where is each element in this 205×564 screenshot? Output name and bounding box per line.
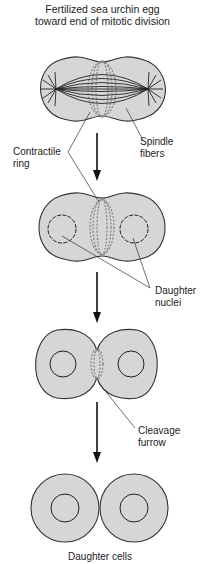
arrow-1 (93, 133, 101, 181)
arrow-3 (93, 402, 101, 463)
daughter-cell-left (31, 474, 99, 542)
stage-2-cell (39, 152, 165, 288)
arrow-2 (93, 272, 101, 323)
stage-4-daughter-cells (31, 474, 168, 542)
mitosis-diagram (0, 0, 205, 564)
label-contractile-ring: Contractile ring (13, 146, 61, 169)
label-daughter-nuclei: Daughter nuclei (155, 285, 196, 308)
label-spindle-fibers: Spindle fibers (140, 136, 173, 159)
label-daughter-cells: Daughter cells (0, 551, 200, 563)
daughter-cell-right (100, 474, 168, 542)
label-cleavage-furrow: Cleavage furrow (138, 425, 180, 448)
